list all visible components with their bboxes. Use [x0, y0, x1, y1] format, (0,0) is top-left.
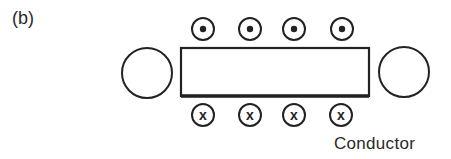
conductor-label: Conductor [334, 134, 415, 154]
dot-icon [339, 26, 345, 32]
cross-icon: x [337, 107, 345, 123]
cross-icon: x [290, 107, 298, 123]
dot-icon [247, 26, 253, 32]
dot-icon [291, 26, 297, 32]
cross-icon: x [246, 107, 254, 123]
right-circle [379, 47, 429, 97]
left-circle [122, 48, 172, 98]
dot-icon [200, 26, 206, 32]
cross-icon: x [199, 107, 207, 123]
conductor-rectangle [181, 48, 369, 96]
